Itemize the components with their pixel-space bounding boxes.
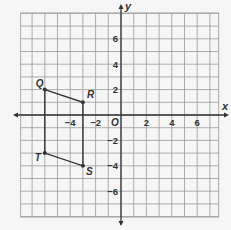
coordinate-plane: −4−2246642−2−4−6 QRST x y O <box>0 0 231 230</box>
x-tick-label: 4 <box>169 117 175 128</box>
vertex-point <box>81 100 85 104</box>
origin-label: O <box>111 117 119 128</box>
y-tick-label: 6 <box>113 33 118 44</box>
y-tick-label: 4 <box>113 59 119 70</box>
vertex-label: S <box>86 166 93 177</box>
vertex-point <box>81 164 85 168</box>
x-axis-arrow-left-icon <box>13 113 18 118</box>
vertex-label: T <box>35 152 42 163</box>
vertex-point <box>43 151 47 155</box>
y-tick-label: −6 <box>107 186 118 197</box>
x-axis-arrow-right-icon <box>224 113 229 118</box>
x-tick-label: −2 <box>90 117 101 128</box>
y-tick-label: −2 <box>107 135 118 146</box>
y-tick-label: −4 <box>107 160 119 171</box>
y-axis-arrow-down-icon <box>119 221 124 226</box>
vertex-label: R <box>87 89 95 100</box>
x-tick-label: 6 <box>195 117 200 128</box>
y-axis-label: y <box>124 0 132 12</box>
x-axis-label: x <box>221 100 229 112</box>
x-tick-label: −4 <box>65 117 77 128</box>
y-tick-label: 2 <box>113 84 118 95</box>
vertex-label: Q <box>36 78 44 89</box>
y-axis-arrow-up-icon <box>119 4 124 9</box>
x-tick-label: 2 <box>144 117 149 128</box>
